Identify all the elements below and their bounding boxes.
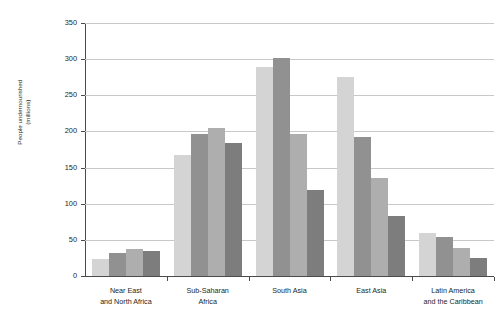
bar	[337, 77, 354, 276]
bar	[174, 155, 191, 276]
axis-baseline	[85, 276, 494, 277]
y-tick-label: 250	[13, 91, 77, 99]
bar-group	[174, 23, 242, 276]
bar	[191, 134, 208, 276]
x-tick-mark	[167, 277, 168, 281]
bar-group	[337, 23, 405, 276]
bar	[92, 259, 109, 276]
bar	[109, 253, 126, 276]
bar	[208, 128, 225, 276]
x-tick-label: Sub-Saharan Africa	[167, 285, 249, 307]
bar-chart: People undernourished (millions) 0501001…	[0, 0, 503, 326]
y-tick-label: 300	[13, 55, 77, 63]
x-tick-mark	[330, 277, 331, 281]
y-tick-label: 100	[13, 200, 77, 208]
bar	[354, 137, 371, 276]
bar	[453, 248, 470, 276]
bar-group	[256, 23, 324, 276]
bar	[419, 233, 436, 276]
bar-group	[419, 23, 487, 276]
bar	[436, 237, 453, 276]
y-tick-label: 50	[13, 236, 77, 244]
x-tick-label: Latin America and the Caribbean	[412, 285, 494, 307]
bar	[307, 190, 324, 276]
bar	[143, 251, 160, 276]
bar	[371, 178, 388, 276]
bar	[470, 258, 487, 276]
bar	[290, 134, 307, 276]
plot-area	[85, 23, 494, 276]
bar	[126, 249, 143, 276]
bar-group	[92, 23, 160, 276]
y-tick-label: 350	[13, 19, 77, 27]
bar	[273, 58, 290, 276]
y-tick-label: 200	[13, 127, 77, 135]
x-tick-mark	[494, 277, 495, 281]
y-tick-label: 0	[13, 272, 77, 280]
bar	[225, 143, 242, 276]
x-tick-mark	[249, 277, 250, 281]
x-tick-mark	[412, 277, 413, 281]
x-tick-label: East Asia	[330, 285, 412, 296]
x-tick-label: Near East and North Africa	[85, 285, 167, 307]
y-tick-label: 150	[13, 164, 77, 172]
x-tick-label: South Asia	[249, 285, 331, 296]
bar	[388, 216, 405, 276]
y-axis-title: People undernourished (millions)	[16, 42, 32, 182]
bar	[256, 67, 273, 276]
